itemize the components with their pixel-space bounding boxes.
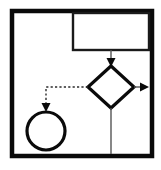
diagram-canvas <box>0 0 161 170</box>
terminator-circle[interactable] <box>27 112 65 150</box>
process-box[interactable] <box>73 13 149 50</box>
connector-diamond-to-circle <box>46 87 88 106</box>
arrow-head-right <box>140 83 149 92</box>
flowchart-svg <box>0 0 161 170</box>
decision-diamond[interactable] <box>88 66 134 108</box>
